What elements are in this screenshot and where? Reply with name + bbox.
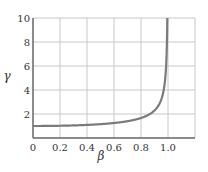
y-tick-label: 10	[17, 13, 30, 24]
x-tick-label: 0.6	[106, 142, 122, 153]
x-axis-label: β	[97, 149, 105, 163]
y-tick-labels: 246810	[17, 13, 30, 120]
y-tick-label: 4	[24, 85, 30, 96]
grid-lines	[33, 18, 195, 138]
x-tick-label: 0.4	[79, 142, 95, 153]
gamma-curve	[33, 18, 167, 126]
x-tick-label: 0.8	[133, 142, 149, 153]
x-tick-label: 0	[30, 142, 36, 153]
y-tick-label: 8	[24, 37, 30, 48]
gamma-vs-beta-chart: 00.20.40.60.81.0 246810 β γ	[0, 0, 208, 172]
y-tick-label: 2	[24, 109, 30, 120]
y-tick-label: 6	[24, 61, 30, 72]
x-tick-label: 1.0	[160, 142, 176, 153]
y-axis-label: γ	[3, 69, 11, 83]
x-tick-label: 0.2	[52, 142, 68, 153]
